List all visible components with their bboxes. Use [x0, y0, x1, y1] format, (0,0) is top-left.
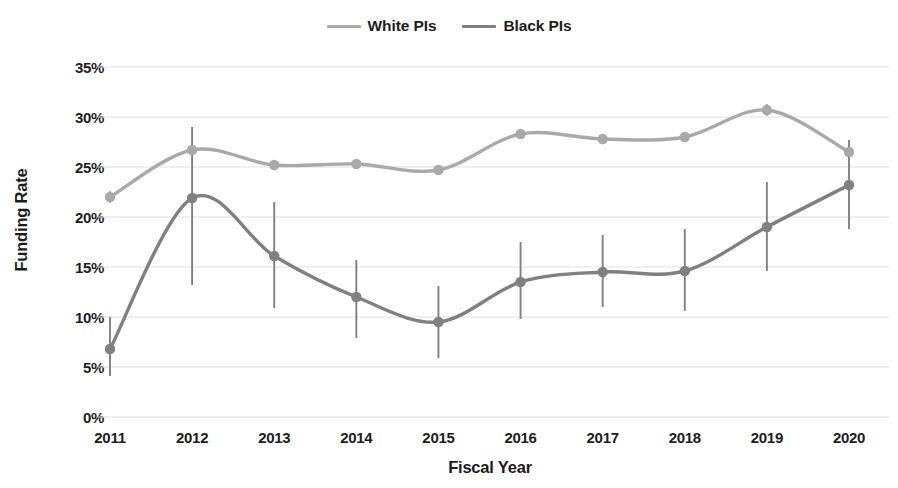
- x-tick-label-2013: 2013: [234, 429, 314, 446]
- x-tick-label-2015: 2015: [398, 429, 478, 446]
- x-tick-label-2017: 2017: [563, 429, 643, 446]
- x-tick-label-2011: 2011: [70, 429, 150, 446]
- x-tick-label-2012: 2012: [152, 429, 232, 446]
- funding-rate-line-chart: White PIs Black PIs Funding Rate 0%5%10%…: [0, 0, 898, 488]
- x-axis-tick-labels: 2011201220132014201520162017201820192020: [0, 0, 898, 488]
- x-tick-label-2016: 2016: [481, 429, 561, 446]
- x-tick-label-2019: 2019: [727, 429, 807, 446]
- x-tick-label-2018: 2018: [645, 429, 725, 446]
- x-axis-title: Fiscal Year: [90, 458, 890, 477]
- x-tick-label-2014: 2014: [316, 429, 396, 446]
- x-tick-label-2020: 2020: [809, 429, 889, 446]
